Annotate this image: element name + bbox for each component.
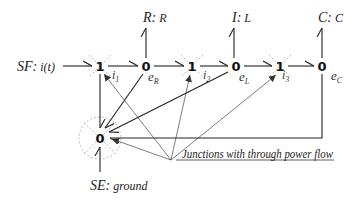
var-eL: eL	[239, 69, 250, 86]
label-inductor: I:L	[231, 10, 251, 25]
bond-j0c-ground	[110, 74, 322, 138]
svg-text:I:L: I:L	[231, 10, 251, 25]
var-eR: eR	[148, 69, 159, 86]
svg-text:C:C: C:C	[318, 10, 344, 25]
junction-ground: 0	[95, 131, 104, 146]
diagram-canvas: 1 0 1 0 1 0 0 SF:i(t) R:R I:L C:C SE:gro…	[0, 0, 360, 206]
junction-j1a: 1	[95, 59, 104, 74]
var-i1: i1	[112, 68, 119, 84]
svg-text:SE:ground: SE:ground	[90, 178, 148, 193]
junction-j1b: 1	[187, 59, 196, 74]
svg-text:SF:i(t): SF:i(t)	[17, 59, 55, 74]
var-i2: i2	[203, 68, 210, 84]
bond-graph-diagram: 1 0 1 0 1 0 0 SF:i(t) R:R I:L C:C SE:gro…	[0, 0, 360, 206]
svg-text:R:R: R:R	[142, 10, 167, 25]
var-eC: eC	[331, 68, 343, 85]
junction-j0c: 0	[317, 59, 326, 74]
label-ground-source: SE:ground	[90, 178, 148, 193]
annotation-through-power: Junctions with through power flow	[182, 147, 334, 161]
label-source-flow: SF:i(t)	[17, 59, 55, 74]
label-resistor: R:R	[142, 10, 167, 25]
var-i3: i3	[282, 68, 289, 84]
through-power-markers	[79, 55, 291, 159]
label-capacitor: C:C	[318, 10, 344, 25]
